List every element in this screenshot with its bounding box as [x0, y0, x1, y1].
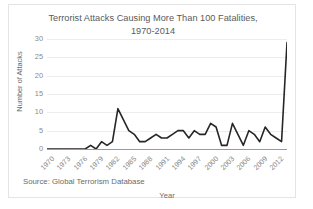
series-polyline — [47, 43, 287, 149]
line-series — [47, 39, 287, 149]
y-tick-label: 25 — [25, 53, 43, 60]
chart-title-line-2: 1970-2014 — [9, 25, 297, 38]
y-axis-label: Number of Attacks — [15, 44, 24, 120]
source-note: Source: Global Terrorism Database — [23, 177, 145, 186]
chart-card: Terrorist Attacks Causing More Than 100 … — [8, 4, 296, 198]
y-tick-label: 5 — [25, 127, 43, 134]
y-tick-label: 30 — [25, 35, 43, 42]
y-tick-label: 15 — [25, 90, 43, 97]
chart-title-line-1: Terrorist Attacks Causing More Than 100 … — [9, 12, 297, 25]
y-tick-label: 0 — [25, 145, 43, 152]
chart-title: Terrorist Attacks Causing More Than 100 … — [9, 12, 297, 37]
plot-area: Number of Attacks 051015202530 197019731… — [9, 39, 297, 164]
y-tick-label: 20 — [25, 72, 43, 79]
x-axis-line — [47, 149, 287, 150]
x-axis-label: Year — [47, 191, 287, 200]
y-tick-label: 10 — [25, 108, 43, 115]
